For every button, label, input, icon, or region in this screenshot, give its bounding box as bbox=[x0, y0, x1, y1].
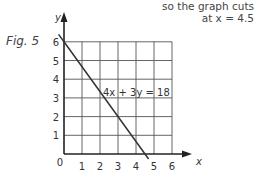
y-tick-label: 6 bbox=[53, 37, 59, 48]
y-axis-arrow-icon bbox=[61, 12, 68, 22]
x-tick-label: 5 bbox=[151, 161, 157, 172]
x-tick-label: 1 bbox=[79, 161, 85, 172]
x-tick-label: 4 bbox=[133, 161, 139, 172]
x-tick-label: 6 bbox=[169, 161, 175, 172]
line-equation-label: 4x + 3y = 18 bbox=[103, 87, 170, 98]
y-tick-label: 5 bbox=[53, 56, 59, 67]
x-tick-label: 3 bbox=[115, 161, 121, 172]
y-tick-label: 2 bbox=[53, 112, 59, 123]
x-axis-label: x bbox=[195, 156, 202, 167]
origin-label: 0 bbox=[57, 157, 63, 168]
y-tick-label: 4 bbox=[53, 74, 59, 85]
y-tick-label: 1 bbox=[53, 130, 59, 141]
x-axis-arrow-icon bbox=[182, 151, 192, 158]
x-tick-label: 2 bbox=[97, 161, 103, 172]
chart: 1234561234560xy 4x + 3y = 18 bbox=[0, 0, 262, 173]
y-tick-label: 3 bbox=[53, 93, 59, 104]
y-axis-label: y bbox=[54, 12, 62, 23]
